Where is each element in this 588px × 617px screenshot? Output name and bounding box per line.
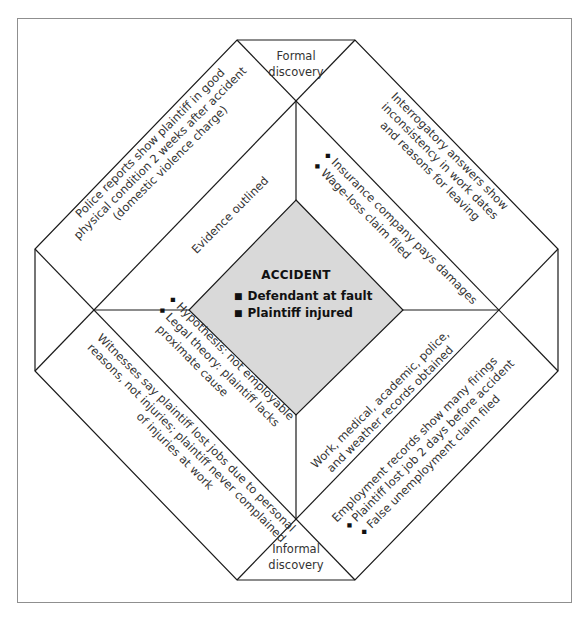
accident-title: ACCIDENT	[216, 268, 376, 282]
accident-center: ACCIDENT Defendant at fault Plaintiff in…	[216, 268, 376, 322]
informal-line2: discovery	[251, 557, 341, 573]
formal-line2: discovery	[251, 64, 341, 80]
center-item: Plaintiff injured	[216, 305, 376, 322]
center-item: Defendant at fault	[216, 288, 376, 305]
formal-line1: Formal	[251, 48, 341, 64]
formal-discovery-label: Formal discovery	[251, 48, 341, 80]
